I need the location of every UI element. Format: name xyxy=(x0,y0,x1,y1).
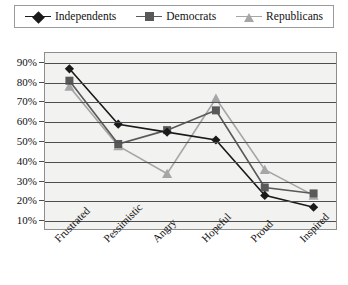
y-axis-label: 60% xyxy=(17,115,37,127)
gridline xyxy=(45,63,336,64)
data-point-democrats-proud xyxy=(261,183,269,191)
data-point-republicans-angry xyxy=(162,169,172,178)
legend-label: Independents xyxy=(55,11,116,23)
legend-label: Republicans xyxy=(266,11,323,23)
y-axis-label: 10% xyxy=(17,214,37,226)
plot-area xyxy=(44,52,337,230)
chart-container: IndependentsDemocratsRepublicans 10%20%3… xyxy=(0,0,348,285)
y-axis-tick xyxy=(39,101,44,102)
data-point-democrats-inspired xyxy=(310,189,318,197)
gridline xyxy=(45,221,336,222)
y-axis-tick xyxy=(39,121,44,122)
legend-entry-democrats: Democrats xyxy=(136,6,216,27)
gridline xyxy=(45,201,336,202)
diamond-marker xyxy=(25,11,51,23)
legend-entry-republicans: Republicans xyxy=(236,6,323,27)
data-point-republicans-hopeful xyxy=(211,93,221,102)
gridline xyxy=(45,122,336,123)
legend-label: Democrats xyxy=(166,11,216,23)
data-point-independents-inspired xyxy=(309,203,318,212)
y-axis-label: 40% xyxy=(17,155,37,167)
gridline xyxy=(45,182,336,183)
data-point-democrats-hopeful xyxy=(212,106,220,114)
series-line-independents xyxy=(69,69,313,207)
square-marker xyxy=(136,11,162,23)
y-axis-tick xyxy=(39,82,44,83)
gridline xyxy=(45,142,336,143)
y-axis-label: 30% xyxy=(17,175,37,187)
y-axis-tick xyxy=(39,161,44,162)
chart-legend: IndependentsDemocratsRepublicans xyxy=(14,5,334,28)
y-axis-label: 20% xyxy=(17,194,37,206)
data-point-republicans-proud xyxy=(260,165,270,174)
gridline xyxy=(45,162,336,163)
y-axis-label: 70% xyxy=(17,95,37,107)
y-axis-tick xyxy=(39,141,44,142)
gridline xyxy=(45,102,336,103)
y-axis-tick xyxy=(39,200,44,201)
y-axis-tick xyxy=(39,220,44,221)
y-axis-label: 80% xyxy=(17,76,37,88)
y-axis-tick xyxy=(39,181,44,182)
gridline xyxy=(45,83,336,84)
triangle-marker xyxy=(236,11,262,23)
y-axis-label: 90% xyxy=(17,56,37,68)
y-axis-label: 50% xyxy=(17,135,37,147)
legend-entry-independents: Independents xyxy=(25,6,116,27)
y-axis-tick xyxy=(39,62,44,63)
